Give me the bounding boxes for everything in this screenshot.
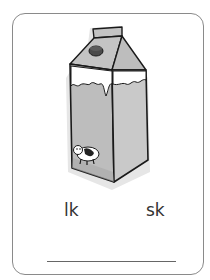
milk-carton-illustration <box>60 22 160 192</box>
answer-line[interactable] <box>47 261 176 262</box>
choice-sk[interactable]: sk <box>146 200 165 220</box>
choice-lk[interactable]: lk <box>64 200 79 220</box>
